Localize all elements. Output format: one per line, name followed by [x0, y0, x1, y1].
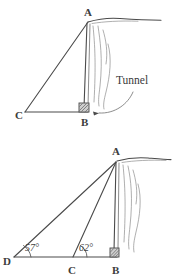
vertex-label-B-bottom: B [112, 264, 120, 276]
vertex-label-B-top: B [81, 116, 89, 128]
rock-crease-2-bottom [128, 166, 131, 249]
diagram-canvas: A B C Tunnel [0, 0, 172, 279]
rock-crease-3-top [103, 30, 107, 64]
rock-crease-1-top [93, 26, 95, 102]
cliff-edge-inner-top [88, 24, 90, 107]
rock-crease-2-top [98, 26, 101, 106]
vertex-label-A-bottom: A [112, 145, 120, 157]
tunnel-callout-arrowhead-top [93, 112, 99, 116]
vertex-label-A-top: A [84, 6, 92, 18]
figure-top-group: A B C Tunnel [15, 6, 161, 128]
vertex-label-C-top: C [15, 109, 23, 121]
cliff-edge-inner-bottom [118, 163, 119, 250]
figure-bottom-group: 57° 62° A B C D [3, 145, 171, 276]
tunnel-opening-box-top [79, 103, 89, 112]
segment-AB-top [84, 23, 87, 108]
rock-crease-3-bottom [133, 170, 137, 204]
cliff-ridge-shade-bottom [122, 160, 166, 162]
angle-label-62: 62° [79, 242, 93, 253]
segment-AB-bottom [114, 162, 116, 251]
angle-label-57: 57° [25, 242, 39, 253]
cliff-ridge-shade-top [92, 21, 138, 23]
vertex-label-D-bottom: D [3, 255, 11, 267]
geometry-diagram-svg: A B C Tunnel [0, 0, 172, 279]
rock-crease-1-bottom [123, 165, 125, 242]
cliff-ridge-line-top [88, 18, 161, 22]
segment-AC-top [25, 22, 88, 112]
vertex-label-C-bottom: C [68, 264, 76, 276]
tunnel-callout-label: Tunnel [116, 74, 148, 86]
